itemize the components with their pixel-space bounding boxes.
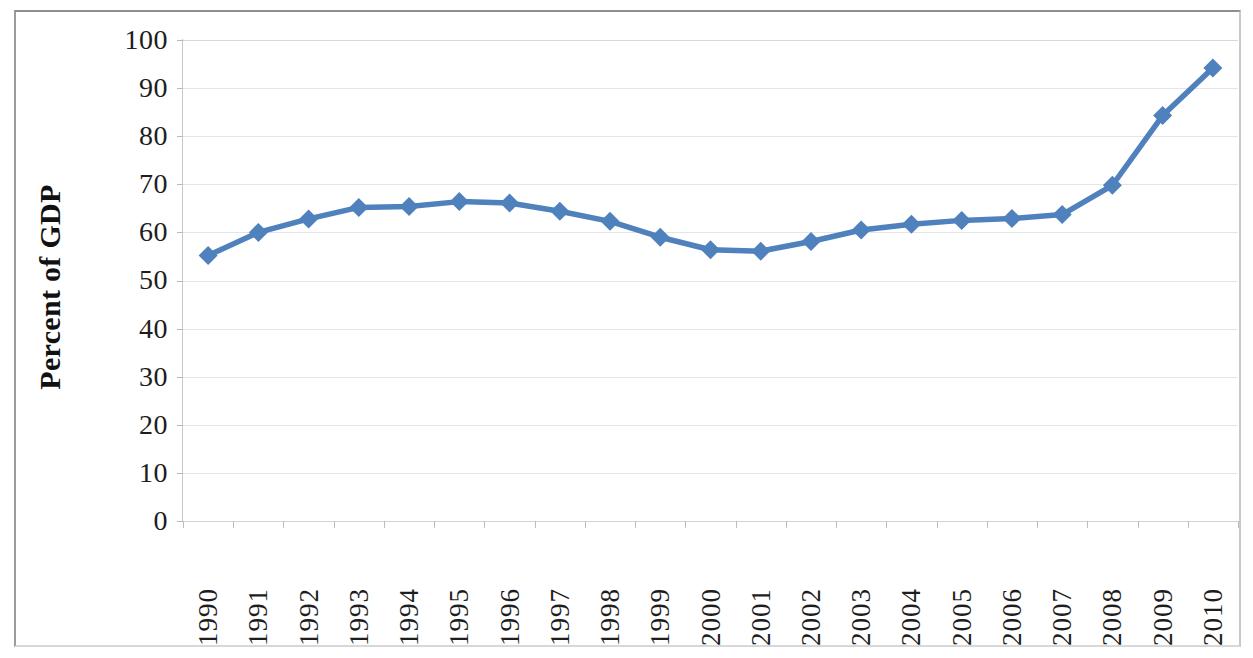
x-axis-tick (1238, 521, 1239, 528)
y-tick-label: 30 (78, 363, 168, 391)
y-axis-title: Percent of GDP (33, 122, 67, 452)
gridline (183, 521, 1238, 522)
gridline (183, 377, 1238, 378)
x-tick-label: 2010 (1199, 536, 1227, 646)
x-tick-label: 2009 (1149, 536, 1177, 646)
gridline (183, 232, 1238, 233)
x-axis-tick (434, 521, 435, 528)
x-tick-label: 1991 (244, 536, 272, 646)
x-tick-label: 2008 (1098, 536, 1126, 646)
x-tick-label: 1997 (546, 536, 574, 646)
x-axis-tick (886, 521, 887, 528)
line-chart-figure: 100 90 80 70 60 50 40 30 20 10 0 Percent… (0, 0, 1253, 658)
x-axis-tick (233, 521, 234, 528)
plot-area (183, 40, 1238, 521)
x-axis-tick (937, 521, 938, 528)
x-axis-tick (183, 521, 184, 528)
x-axis-tick (1037, 521, 1038, 528)
x-tick-label: 1998 (596, 536, 624, 646)
x-axis-tick (685, 521, 686, 528)
x-tick-label: 1992 (295, 536, 323, 646)
x-tick-label: 1994 (395, 536, 423, 646)
x-tick-label: 1999 (646, 536, 674, 646)
x-axis-tick (1138, 521, 1139, 528)
x-tick-label: 1993 (345, 536, 373, 646)
x-axis-tick (484, 521, 485, 528)
x-tick-label: 2001 (747, 536, 775, 646)
x-tick-label: 2000 (697, 536, 725, 646)
y-axis-tick-labels: 100 90 80 70 60 50 40 30 20 10 0 (72, 0, 168, 658)
y-tick-label: 50 (78, 266, 168, 294)
x-tick-label: 2002 (797, 536, 825, 646)
x-axis-tick (836, 521, 837, 528)
y-tick-label: 70 (78, 170, 168, 198)
x-tick-label: 1996 (496, 536, 524, 646)
gridline (183, 425, 1238, 426)
x-axis-tick (334, 521, 335, 528)
x-tick-label: 2003 (847, 536, 875, 646)
x-tick-label: 2007 (1048, 536, 1076, 646)
x-tick-label: 1995 (445, 536, 473, 646)
gridline (183, 40, 1238, 41)
x-axis-tick (736, 521, 737, 528)
gridline (183, 329, 1238, 330)
y-tick-label: 100 (78, 26, 168, 54)
x-tick-label: 1990 (194, 536, 222, 646)
x-axis-tick (635, 521, 636, 528)
y-tick-label: 80 (78, 122, 168, 150)
y-tick-label: 0 (78, 507, 168, 535)
gridline (183, 281, 1238, 282)
x-axis-tick (585, 521, 586, 528)
gridline (183, 88, 1238, 89)
x-tick-label: 2006 (998, 536, 1026, 646)
y-tick-label: 40 (78, 315, 168, 343)
x-tick-label: 2004 (897, 536, 925, 646)
gridline (183, 184, 1238, 185)
x-axis-tick (283, 521, 284, 528)
y-tick-label: 20 (78, 411, 168, 439)
y-tick-label: 90 (78, 74, 168, 102)
x-axis-tick (1087, 521, 1088, 528)
gridline (183, 136, 1238, 137)
y-tick-label: 10 (78, 459, 168, 487)
x-axis-tick (535, 521, 536, 528)
x-axis-tick (1188, 521, 1189, 528)
y-tick-label: 60 (78, 218, 168, 246)
gridline (183, 473, 1238, 474)
x-axis-tick (384, 521, 385, 528)
x-tick-label: 2005 (948, 536, 976, 646)
x-axis-tick (786, 521, 787, 528)
x-axis-tick (987, 521, 988, 528)
